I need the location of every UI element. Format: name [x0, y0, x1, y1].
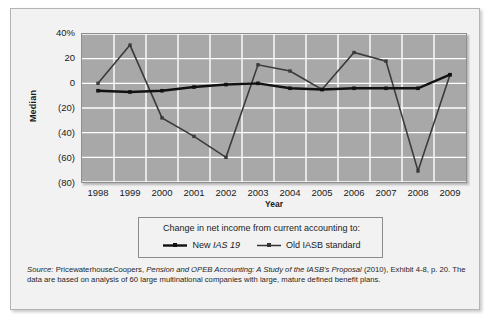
x-tick-label: 1998	[81, 187, 115, 198]
old-iasb-standard-point	[192, 135, 195, 138]
source-label: Source:	[27, 265, 54, 274]
chart-legend: Change in net income from current accoun…	[138, 217, 383, 258]
x-tick-label: 1999	[113, 187, 147, 198]
source-title-italic: Pension and OPEB Accounting: A Study of …	[146, 265, 362, 274]
new-ias-19-point	[192, 85, 196, 89]
old-iasb-standard-point	[416, 169, 419, 172]
old-iasb-standard-point	[96, 82, 99, 85]
x-tick-label: 2008	[401, 187, 435, 198]
chart-svg	[82, 34, 466, 182]
x-tick-label: 2009	[433, 187, 467, 198]
y-axis-tick-labels: 40% 20 0 (20) (40) (60) (80)	[25, 15, 75, 211]
y-tick-label: 20	[33, 53, 75, 63]
old-iasb-standard-point	[224, 156, 227, 159]
new-ias-19-point	[384, 86, 388, 90]
plot-area	[81, 33, 467, 183]
legend-label-old-iasb-standard: Old IASB standard	[286, 240, 361, 250]
legend-swatch-thick-line-icon	[162, 241, 188, 250]
legend-label-new-ias-19: New IAS 19	[192, 240, 240, 250]
legend-entry-new-ias-19: New IAS 19	[162, 240, 240, 250]
new-ias-19-point	[96, 89, 100, 93]
y-tick-label: (80)	[33, 178, 75, 188]
source-part1: PricewaterhouseCoopers,	[54, 265, 147, 274]
new-ias-19-point	[352, 86, 356, 90]
x-tick-label: 2003	[241, 187, 275, 198]
new-ias-19-point	[448, 73, 452, 77]
new-ias-19-point	[256, 82, 260, 86]
exhibit-panel: Median 40% 20 0 (20) (40) (60) (80) 1998…	[10, 8, 480, 310]
x-tick-label: 2002	[209, 187, 243, 198]
old-iasb-standard-point	[256, 63, 259, 66]
new-ias-19-point	[160, 89, 164, 93]
y-tick-label: 0	[33, 78, 75, 88]
gridlines	[82, 34, 466, 182]
x-tick-label: 2006	[337, 187, 371, 198]
legend-title: Change in net income from current accoun…	[139, 223, 384, 233]
y-tick-label: (40)	[33, 128, 75, 138]
legend-entries: New IAS 19 Old IASB standard	[139, 240, 384, 250]
y-tick-label: 40%	[33, 28, 75, 38]
x-tick-label: 2001	[177, 187, 211, 198]
x-axis-title: Year	[81, 199, 467, 209]
x-tick-label: 2005	[305, 187, 339, 198]
new-ias-19-point	[416, 86, 420, 90]
old-iasb-standard-point	[128, 43, 131, 46]
new-ias-19-point	[128, 90, 132, 94]
legend-label-italic: IAS 19	[213, 240, 240, 250]
new-ias-19-point	[288, 86, 292, 90]
x-tick-label: 2000	[145, 187, 179, 198]
y-tick-label: (60)	[33, 153, 75, 163]
old-iasb-standard-point	[288, 69, 291, 72]
old-iasb-standard-point	[352, 51, 355, 54]
x-tick-label: 2007	[369, 187, 403, 198]
old-iasb-standard-point	[384, 59, 387, 62]
source-note: Source: PricewaterhouseCoopers, Pension …	[27, 265, 467, 285]
old-iasb-standard-point	[160, 116, 163, 119]
legend-entry-old-iasb-standard: Old IASB standard	[256, 240, 361, 250]
y-tick-label: (20)	[33, 103, 75, 113]
chart-region: Median 40% 20 0 (20) (40) (60) (80) 1998…	[11, 15, 481, 211]
new-ias-19-point	[224, 83, 228, 87]
legend-swatch-thin-line-icon	[256, 241, 282, 250]
x-tick-label: 2004	[273, 187, 307, 198]
new-ias-19-point	[320, 88, 324, 92]
